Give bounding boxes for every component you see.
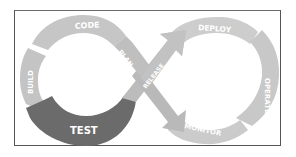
stage-build-label: BUILD (27, 70, 35, 94)
stage-test-segment (26, 96, 136, 146)
stage-operate-segment (236, 30, 279, 126)
crossing-band-lower (132, 66, 186, 132)
stage-code-label: CODE (75, 20, 100, 31)
stage-code-segment (32, 15, 126, 50)
stage-test-label: TEST (70, 125, 98, 136)
devops-infinity-diagram: CODE PLAN RELEASE DEPLOY OPERATE MONITOR… (0, 0, 296, 157)
stage-operate-label: OPERATE (263, 78, 271, 114)
